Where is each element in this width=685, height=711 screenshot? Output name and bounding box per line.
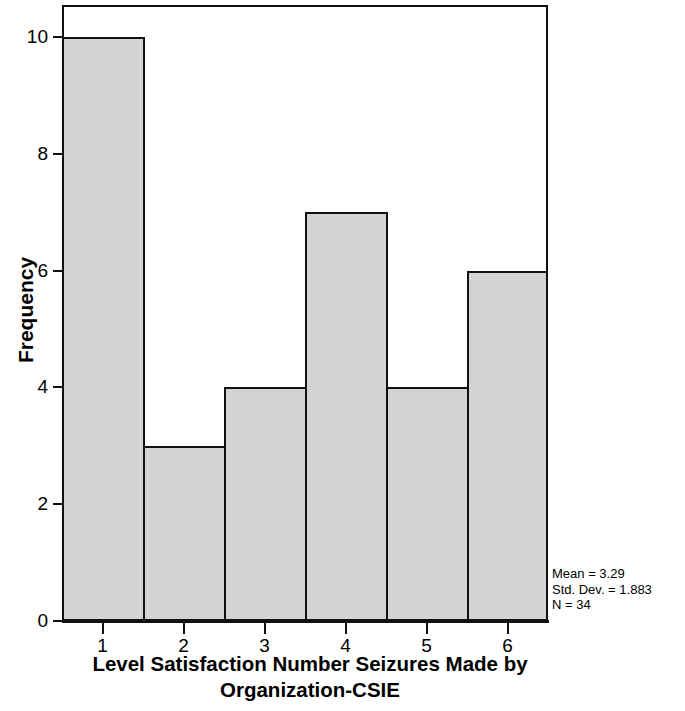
y-axis-tick-label: 10: [8, 27, 48, 46]
stat-std-dev: Std. Dev. = 1.883: [552, 582, 652, 598]
histogram-bar: [386, 387, 469, 621]
histogram-bar: [224, 387, 307, 621]
bars-layer: [62, 5, 548, 621]
x-axis-line: [62, 620, 549, 623]
x-axis-title-line-2: Organization-CSIE: [220, 678, 400, 701]
x-axis-tick-mark: [102, 623, 104, 634]
y-axis-tick-label: 2: [8, 494, 48, 513]
y-axis-tick-mark: [53, 36, 62, 38]
y-axis-line: [62, 5, 64, 623]
histogram-bar: [467, 271, 548, 621]
y-axis-title: Frequency: [14, 210, 38, 410]
y-axis-tick-mark: [53, 386, 62, 388]
y-axis-tick-label: 8: [8, 144, 48, 163]
x-axis-tick-mark: [183, 623, 185, 634]
y-axis-tick-mark: [53, 620, 62, 622]
histogram-bar: [62, 37, 145, 621]
x-axis-tick-mark: [426, 623, 428, 634]
y-axis-tick-label: 0: [8, 611, 48, 630]
y-axis-tick-mark: [53, 503, 62, 505]
histogram-chart: 0246810 Frequency 123456 Level Satisfact…: [0, 0, 685, 711]
stat-mean: Mean = 3.29: [552, 566, 652, 582]
x-axis-title: Level Satisfaction Number Seizures Made …: [30, 651, 590, 703]
stat-n: N = 34: [552, 597, 652, 613]
y-axis-tick-mark: [53, 153, 62, 155]
histogram-bar: [143, 446, 226, 621]
x-axis-tick-mark: [264, 623, 266, 634]
x-axis-title-line-1: Level Satisfaction Number Seizures Made …: [92, 652, 527, 675]
x-axis-tick-mark: [345, 623, 347, 634]
y-axis-tick-mark: [53, 270, 62, 272]
statistics-annotation: Mean = 3.29 Std. Dev. = 1.883 N = 34: [552, 566, 652, 613]
histogram-bar: [305, 212, 388, 621]
x-axis-tick-mark: [507, 623, 509, 634]
